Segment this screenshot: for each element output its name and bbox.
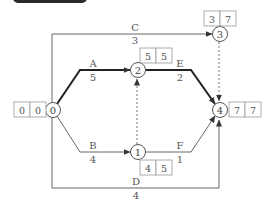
node-3-time-box: 3 7 — [204, 11, 236, 26]
node-2: 2 — [131, 63, 146, 78]
activity-d-duration: 4 — [133, 190, 139, 201]
node-0-time-box: 0 0 — [14, 102, 46, 117]
activity-f-name: F — [177, 140, 184, 151]
node-0-latest: 0 — [35, 105, 41, 116]
node-4: 4 — [213, 103, 228, 118]
network-diagram: C 3 D 4 A 5 B 4 E 2 F 1 0 1 — [0, 0, 271, 211]
node-4-earliest: 7 — [234, 105, 240, 116]
node-0-label: 0 — [50, 105, 56, 116]
activity-b-name: B — [89, 140, 96, 151]
activity-c-name: C — [131, 22, 139, 33]
activity-b-duration: 4 — [90, 154, 96, 165]
node-1-label: 1 — [135, 147, 141, 158]
node-3-earliest: 3 — [209, 14, 215, 25]
node-2-label: 2 — [135, 65, 141, 76]
node-4-time-box: 7 7 — [229, 102, 261, 117]
node-1-latest: 5 — [161, 163, 167, 174]
activity-c: C 3 — [52, 22, 212, 102]
activity-e-name: E — [176, 58, 183, 69]
node-3: 3 — [213, 27, 228, 42]
node-4-latest: 7 — [250, 105, 256, 116]
activity-e-duration: 2 — [177, 72, 183, 83]
node-2-latest: 5 — [161, 51, 167, 62]
activity-a: A 5 — [57, 58, 130, 104]
node-1-time-box: 4 5 — [140, 160, 172, 175]
node-2-earliest: 5 — [145, 51, 151, 62]
node-3-label: 3 — [217, 29, 223, 40]
node-0-earliest: 0 — [19, 105, 25, 116]
node-0: 0 — [46, 103, 61, 118]
node-2-time-box: 5 5 — [140, 48, 172, 63]
activity-a-duration: 5 — [90, 72, 96, 83]
activity-e: E 2 — [146, 58, 215, 104]
node-1-earliest: 4 — [145, 163, 151, 174]
activity-a-name: A — [88, 58, 97, 69]
activity-f-duration: 1 — [177, 154, 183, 165]
node-4-label: 4 — [217, 105, 223, 116]
node-3-latest: 7 — [225, 14, 231, 25]
activity-c-duration: 3 — [132, 35, 138, 46]
activity-d-name: D — [132, 176, 140, 187]
activity-f: F 1 — [146, 116, 215, 165]
activity-b: B 4 — [57, 116, 130, 165]
node-1: 1 — [131, 145, 146, 160]
